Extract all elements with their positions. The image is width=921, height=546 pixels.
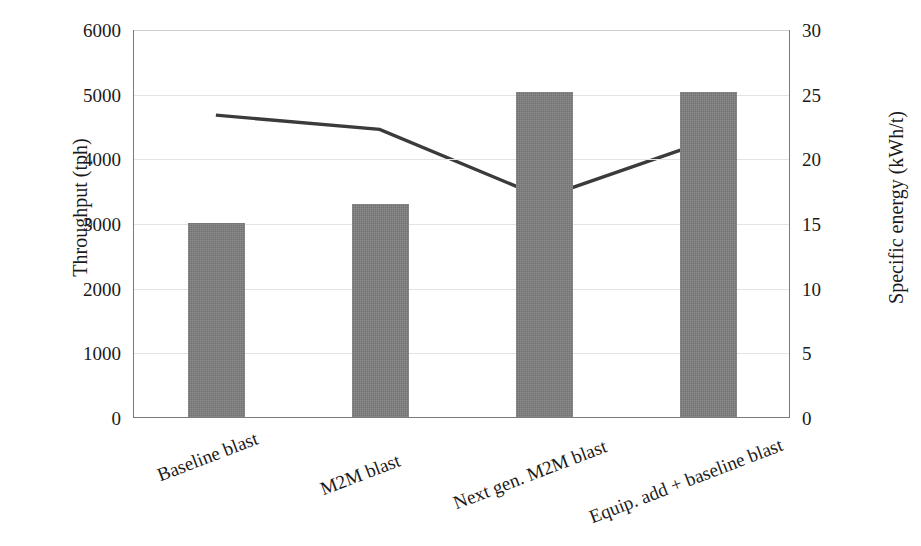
right-tick-label: 20 [802,150,862,169]
chart-figure: 0100020003000400050006000 051015202530 B… [0,0,921,546]
left-tick-label: 6000 [21,21,121,40]
category-label: Baseline blast [155,429,261,485]
bar [188,223,245,417]
right-tick-label: 0 [802,409,862,428]
bar [516,92,573,417]
left-tick-label: 0 [21,409,121,428]
right-tick-label: 5 [802,344,862,363]
plot-area [133,30,790,418]
line-path [216,115,707,198]
category-label: Equip. add + baseline blast [586,435,785,526]
right-tick-label: 25 [802,86,862,105]
category-label: M2M blast [318,451,403,499]
right-axis-title: Specific energy (kWh/t) [885,63,908,353]
category-label: Next gen. M2M blast [450,436,609,512]
right-tick-label: 15 [802,215,862,234]
bar [352,204,409,417]
right-tick-label: 10 [802,280,862,299]
right-tick-label: 30 [802,21,862,40]
gridline [134,30,789,31]
left-axis-title: Throughput (tph) [69,83,92,333]
left-tick-label: 1000 [21,344,121,363]
bar [680,92,737,417]
